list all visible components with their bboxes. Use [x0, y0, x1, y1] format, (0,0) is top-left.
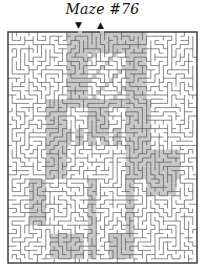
shaded-cell	[84, 82, 89, 87]
shaded-cell	[138, 133, 143, 138]
shaded-cell	[109, 242, 114, 247]
shaded-cell	[67, 40, 72, 45]
shaded-cell	[75, 61, 80, 66]
shaded-cell	[58, 242, 63, 247]
shaded-cell	[92, 196, 97, 201]
shaded-cell	[58, 158, 63, 163]
shaded-cell	[138, 49, 143, 54]
shaded-cell	[63, 103, 68, 108]
shaded-cell	[71, 78, 76, 83]
shaded-cell	[130, 78, 135, 83]
shaded-cell	[29, 208, 34, 213]
shaded-cell	[176, 154, 181, 159]
shaded-cell	[75, 99, 80, 104]
shaded-cell	[126, 221, 131, 226]
shaded-cell	[142, 40, 147, 45]
shaded-cell	[63, 120, 68, 125]
shaded-cell	[75, 246, 80, 251]
shaded-cell	[92, 250, 97, 255]
shaded-cell	[151, 150, 156, 155]
shaded-cell	[46, 120, 51, 125]
entrance-opening	[78, 31, 82, 33]
shaded-cell	[134, 124, 139, 128]
shaded-cell	[92, 183, 97, 188]
shaded-cell	[84, 36, 89, 41]
shaded-cell	[100, 124, 105, 128]
shaded-cell	[58, 255, 63, 260]
shaded-cell	[42, 183, 47, 188]
shaded-cell	[126, 120, 131, 125]
shaded-cell	[126, 204, 131, 209]
shaded-cell	[100, 116, 105, 121]
shaded-cell	[113, 234, 118, 239]
shaded-cell	[142, 129, 147, 134]
shaded-cell	[134, 145, 139, 150]
shaded-cell	[29, 221, 34, 226]
shaded-cell	[67, 137, 72, 142]
shaded-cell	[159, 166, 164, 171]
shaded-cell	[105, 137, 110, 142]
shaded-cell	[113, 255, 118, 260]
shaded-cell	[46, 162, 51, 167]
shaded-cell	[126, 78, 131, 83]
shaded-cell	[151, 162, 156, 167]
shaded-cell	[126, 187, 131, 192]
shaded-cell	[63, 154, 68, 159]
shaded-cell	[79, 95, 84, 100]
shaded-cell	[67, 91, 72, 96]
shaded-cell	[88, 234, 93, 239]
shaded-cell	[50, 120, 55, 125]
shaded-cell	[88, 120, 93, 125]
shaded-cell	[138, 40, 143, 45]
shaded-cell	[79, 45, 84, 50]
shaded-cell	[105, 124, 110, 128]
shaded-cell	[71, 238, 76, 243]
shaded-cell	[75, 45, 80, 50]
shaded-cell	[96, 103, 101, 108]
shaded-cell	[96, 112, 101, 117]
shaded-cell	[113, 103, 118, 108]
shaded-cell	[33, 208, 38, 213]
shaded-cell	[168, 158, 173, 163]
shaded-cell	[54, 141, 59, 146]
shaded-cell	[88, 200, 93, 205]
shaded-cell	[75, 95, 80, 100]
shaded-cell	[50, 112, 55, 117]
shaded-cell	[105, 49, 110, 54]
shaded-cell	[134, 74, 139, 79]
shaded-cell	[142, 45, 147, 50]
shaded-cell	[33, 204, 38, 209]
shaded-cell	[151, 175, 156, 180]
shaded-cell	[88, 116, 93, 121]
shaded-cell	[96, 108, 101, 113]
shaded-cell	[155, 166, 160, 171]
shaded-cell	[54, 120, 59, 125]
shaded-cell	[151, 179, 156, 184]
shaded-cell	[126, 150, 131, 155]
shaded-cell	[126, 234, 131, 239]
shaded-cell	[147, 166, 152, 171]
shaded-cell	[63, 250, 68, 255]
shaded-cell	[126, 200, 131, 205]
shaded-cell	[75, 133, 80, 138]
shaded-cell	[126, 137, 131, 142]
shaded-cell	[130, 158, 135, 163]
shaded-cell	[96, 40, 101, 45]
shaded-cell	[130, 171, 135, 176]
shaded-cell	[46, 137, 51, 142]
shaded-cell	[138, 124, 143, 128]
shaded-cell	[58, 234, 63, 239]
shaded-cell	[126, 108, 131, 113]
shaded-cell	[147, 116, 152, 121]
shaded-cell	[84, 95, 89, 100]
shaded-cell	[63, 158, 68, 163]
shaded-cell	[126, 255, 131, 260]
shaded-cell	[100, 141, 105, 146]
shaded-cell	[105, 61, 110, 66]
shaded-cell	[46, 99, 51, 104]
shaded-cell	[126, 87, 131, 92]
shaded-cell	[126, 175, 131, 180]
shaded-cell	[33, 221, 38, 226]
shaded-cell	[168, 187, 173, 192]
shaded-cell	[126, 95, 131, 100]
